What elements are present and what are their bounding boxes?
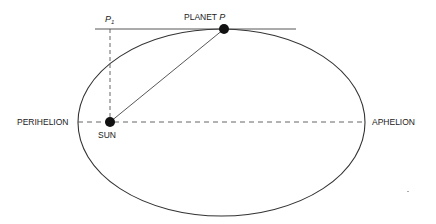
p1-subscript: 1 bbox=[111, 19, 114, 25]
orbit-diagram: P1 PLANET P SUN PERIHELION APHELION bbox=[0, 0, 436, 224]
planet-marker bbox=[219, 24, 229, 34]
perihelion-label: PERIHELION bbox=[17, 117, 69, 127]
sun-label: SUN bbox=[98, 130, 116, 140]
orbit-ellipse bbox=[78, 29, 365, 216]
sun-marker bbox=[105, 117, 115, 127]
p1-label: P1 bbox=[105, 14, 114, 25]
planet-label-prefix: PLANET bbox=[184, 12, 219, 22]
radius-vector-line bbox=[110, 29, 224, 122]
aphelion-label: APHELION bbox=[372, 117, 415, 127]
speck-mark bbox=[407, 191, 409, 192]
planet-label-var: P bbox=[219, 12, 225, 22]
planet-label: PLANET P bbox=[184, 12, 225, 22]
